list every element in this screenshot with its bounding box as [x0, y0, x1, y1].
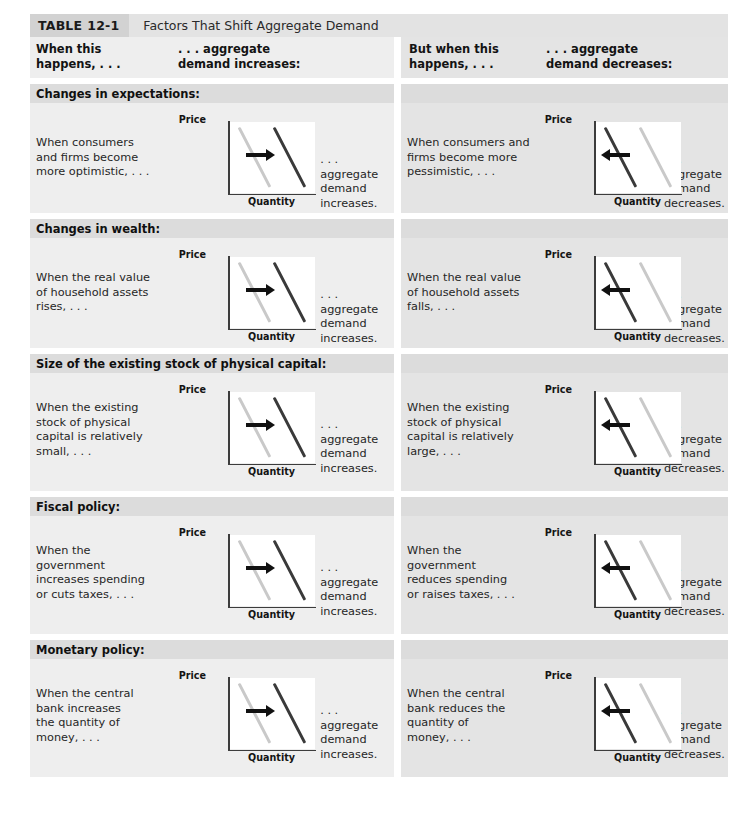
chart-y-axis [228, 121, 230, 195]
chart-y-axis-label: Price [545, 384, 572, 395]
table-section: Size of the existing stock of physical c… [30, 354, 728, 491]
chart-x-axis-label: Quantity [614, 609, 661, 620]
column-header-line: . . . aggregate [546, 42, 728, 57]
text-line: demand increases. [320, 733, 394, 762]
table-page: TABLE 12-1 Factors That Shift Aggregate … [0, 0, 755, 831]
column-gap [394, 37, 401, 78]
decrease-cause-text: When the centralbank reduces thequantity… [401, 659, 546, 777]
increase-chart-cell: PriceQuantity. . . aggregatedemand incre… [178, 238, 394, 348]
increase-result-text: . . . aggregatedemand increases. [320, 383, 394, 476]
shift-arrow-left-icon [610, 288, 630, 292]
decrease-cause-text: When the existingstock of physicalcapita… [401, 373, 546, 491]
text-line: demand increases. [320, 317, 394, 346]
text-line: rises, . . . [36, 300, 178, 315]
section-body: When the existingstock of physicalcapita… [30, 373, 728, 491]
section-heading: Changes in wealth: [30, 219, 394, 238]
text-line: the quantity of [36, 716, 178, 731]
section-heading-right-band [401, 219, 728, 238]
decrease-chart-cell: PriceQuantity. . . aggregatedemand decre… [546, 516, 728, 634]
chart-x-axis [228, 750, 316, 752]
text-line: of household assets [36, 286, 178, 301]
chart-y-axis-label: Price [545, 114, 572, 125]
increase-chart-cell: PriceQuantity. . . aggregatedemand incre… [178, 659, 394, 777]
text-line: When the existing [407, 401, 546, 416]
table-section: Changes in wealth:When the real valueof … [30, 219, 728, 348]
increase-cause-text: When the real valueof household assetsri… [30, 238, 178, 348]
shift-arrow-left-icon [610, 709, 630, 713]
chart-y-axis-label: Price [179, 670, 206, 681]
section-heading-row: Monetary policy: [30, 640, 728, 659]
column-header-demand-decreases: . . . aggregate demand decreases: [546, 37, 728, 78]
text-line: government [36, 559, 178, 574]
text-line: money, . . . [36, 731, 178, 746]
chart-y-axis [228, 534, 230, 608]
chart-x-axis-label: Quantity [614, 466, 661, 477]
ad-shift-chart: PriceQuantity [210, 248, 310, 340]
text-line: increases spending [36, 573, 178, 588]
section-heading-right-band [401, 640, 728, 659]
section-heading-row: Changes in expectations: [30, 84, 728, 103]
text-line: When consumers [36, 136, 178, 151]
table-caption: Factors That Shift Aggregate Demand [129, 14, 378, 37]
ad-shift-chart: PriceQuantity [210, 526, 310, 618]
section-heading: Size of the existing stock of physical c… [30, 354, 394, 373]
text-line: stock of physical [407, 416, 546, 431]
text-line: government [407, 559, 546, 574]
text-line: When the existing [36, 401, 178, 416]
text-line: capital is relatively [36, 430, 178, 445]
chart-x-axis-label: Quantity [248, 196, 295, 207]
ad-shift-chart: PriceQuantity [576, 669, 656, 761]
text-line: small, . . . [36, 445, 178, 460]
shift-arrow-left-icon [610, 153, 630, 157]
chart-y-axis [594, 391, 596, 465]
text-line: When consumers and [407, 136, 546, 151]
chart-y-axis [594, 534, 596, 608]
chart-x-axis-label: Quantity [614, 196, 661, 207]
ad-shift-chart: PriceQuantity [210, 669, 310, 761]
increase-chart-cell: PriceQuantity. . . aggregatedemand incre… [178, 516, 394, 634]
text-line: . . . aggregate [320, 288, 394, 317]
ad-shift-chart: PriceQuantity [576, 248, 656, 340]
text-line: firms become more [407, 151, 546, 166]
aggregate-demand-table: TABLE 12-1 Factors That Shift Aggregate … [30, 14, 728, 777]
text-line: . . . aggregate [320, 153, 394, 182]
chart-y-axis [228, 677, 230, 751]
column-header-line: happens, . . . [409, 57, 546, 72]
chart-y-axis [594, 677, 596, 751]
text-line: When the [407, 544, 546, 559]
text-line: pessimistic, . . . [407, 165, 546, 180]
chart-x-axis [228, 329, 316, 331]
text-line: demand increases. [320, 182, 394, 211]
text-line: When the real value [36, 271, 178, 286]
chart-x-axis [594, 194, 682, 196]
column-gap [394, 640, 401, 659]
column-header-row: When this happens, . . . . . . aggregate… [30, 37, 728, 78]
column-gap [394, 219, 401, 238]
decrease-chart-cell: PriceQuantity. . . aggregatedemand decre… [546, 373, 728, 491]
chart-y-axis [228, 256, 230, 330]
section-body: When consumersand firms becomemore optim… [30, 103, 728, 213]
chart-y-axis-label: Price [545, 249, 572, 260]
text-line: capital is relatively [407, 430, 546, 445]
decrease-cause-text: When consumers andfirms become morepessi… [401, 103, 546, 213]
column-gap [394, 373, 401, 491]
table-title-bar: TABLE 12-1 Factors That Shift Aggregate … [30, 14, 728, 37]
text-line: When the central [36, 687, 178, 702]
text-line: large, . . . [407, 445, 546, 460]
column-gap [394, 84, 401, 103]
text-line: When the real value [407, 271, 546, 286]
column-gap [394, 354, 401, 373]
chart-y-axis-label: Price [179, 384, 206, 395]
column-gap [394, 103, 401, 213]
text-line: quantity of [407, 716, 546, 731]
column-header-line: happens, . . . [36, 57, 178, 72]
decrease-cause-text: When the real valueof household assetsfa… [401, 238, 546, 348]
ad-shift-chart: PriceQuantity [210, 383, 310, 475]
section-heading-row: Fiscal policy: [30, 497, 728, 516]
chart-x-axis [594, 464, 682, 466]
table-label: TABLE [38, 18, 82, 33]
table-section: Monetary policy:When the centralbank inc… [30, 640, 728, 777]
text-line: demand increases. [320, 447, 394, 476]
chart-x-axis-label: Quantity [248, 752, 295, 763]
table-section: Fiscal policy:When thegovernmentincrease… [30, 497, 728, 634]
